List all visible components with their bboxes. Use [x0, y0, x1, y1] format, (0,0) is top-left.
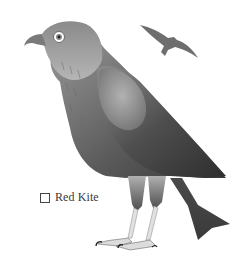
kite-head [24, 21, 102, 80]
species-checkbox[interactable] [40, 193, 50, 203]
species-name: Red Kite [55, 190, 99, 205]
kite-legs [96, 176, 166, 250]
flying-kite [140, 25, 198, 58]
kite-tail [170, 178, 230, 240]
red-kite-illustration [0, 0, 234, 268]
species-checklist-item[interactable]: Red Kite [40, 190, 99, 205]
